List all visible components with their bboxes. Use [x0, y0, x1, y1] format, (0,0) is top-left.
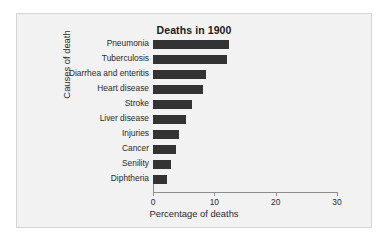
category-label: Tuberculosis — [102, 53, 149, 63]
x-axis-tick-label: 0 — [151, 197, 156, 207]
category-label: Diarrhea and enteritis — [69, 68, 149, 78]
x-axis-line — [153, 192, 337, 193]
category-label: Injuries — [122, 128, 149, 138]
x-axis-tick — [276, 192, 277, 196]
bar-row: Stroke — [153, 97, 337, 112]
x-axis-tick-label: 20 — [271, 197, 280, 207]
y-axis-title: Causes of death — [61, 10, 72, 120]
bar — [153, 55, 227, 64]
bar — [153, 175, 167, 184]
x-axis-tick — [153, 192, 154, 196]
bar-row: Heart disease — [153, 82, 337, 97]
bar-row: Cancer — [153, 142, 337, 157]
bar — [153, 130, 179, 139]
category-label: Liver disease — [100, 113, 149, 123]
category-label: Heart disease — [97, 83, 149, 93]
category-label: Pneumonia — [107, 38, 149, 48]
bar-row: Injuries — [153, 127, 337, 142]
plot-area: PneumoniaTuberculosisDiarrhea and enteri… — [153, 37, 337, 192]
category-label: Diphtheria — [111, 173, 149, 183]
x-axis-tick-label: 10 — [210, 197, 219, 207]
x-axis-tick — [337, 192, 338, 196]
bar-row: Liver disease — [153, 112, 337, 127]
bar — [153, 160, 171, 169]
y-axis-line — [153, 184, 154, 192]
bar-row: Tuberculosis — [153, 52, 337, 67]
bar — [153, 40, 229, 49]
bar — [153, 115, 186, 124]
bar — [153, 70, 206, 79]
x-axis-tick-label: 30 — [332, 197, 341, 207]
category-label: Stroke — [125, 98, 149, 108]
bar — [153, 85, 203, 94]
bar — [153, 100, 192, 109]
chart-figure: Deaths in 1900 Causes of death Pneumonia… — [16, 13, 372, 228]
x-axis-tick — [214, 192, 215, 196]
category-label: Cancer — [122, 143, 149, 153]
bar-row: Senility — [153, 157, 337, 172]
x-axis-title: Percentage of deaths — [17, 208, 371, 219]
bar-row: Pneumonia — [153, 37, 337, 52]
category-label: Senility — [122, 158, 149, 168]
bar — [153, 145, 176, 154]
bar-row: Diphtheria — [153, 172, 337, 187]
bar-row: Diarrhea and enteritis — [153, 67, 337, 82]
